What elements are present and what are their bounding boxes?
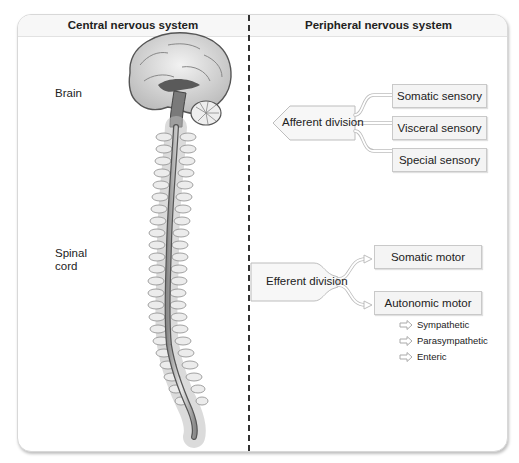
somatic-sensory-box: Somatic sensory — [392, 84, 487, 108]
hollow-arrow-icon — [399, 336, 413, 346]
pns-connector-arrows — [18, 15, 507, 451]
enteric-label: Enteric — [417, 351, 447, 362]
parasympathetic-label: Parasympathetic — [417, 335, 488, 346]
hollow-arrow-icon — [399, 352, 413, 362]
special-sensory-box: Special sensory — [392, 148, 487, 172]
parasympathetic-item: Parasympathetic — [399, 335, 488, 346]
efferent-division-label: Efferent division — [266, 275, 348, 287]
diagram-frame: Central nervous system Peripheral nervou… — [17, 14, 508, 452]
somatic-motor-box: Somatic motor — [374, 245, 482, 269]
afferent-division-label: Afferent division — [282, 116, 364, 128]
hollow-arrow-icon — [399, 320, 413, 330]
sympathetic-label: Sympathetic — [417, 319, 469, 330]
visceral-sensory-box: Visceral sensory — [392, 116, 487, 140]
enteric-item: Enteric — [399, 351, 447, 362]
autonomic-motor-box: Autonomic motor — [374, 291, 482, 315]
sympathetic-item: Sympathetic — [399, 319, 469, 330]
